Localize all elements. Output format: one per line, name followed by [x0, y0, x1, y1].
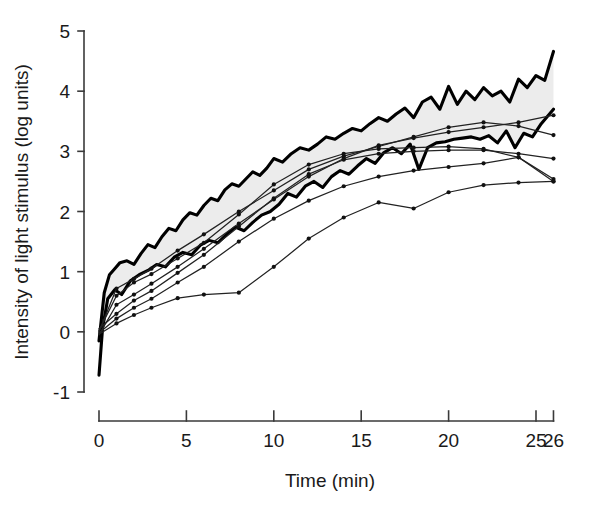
data-point [447, 144, 451, 148]
data-point [237, 291, 241, 295]
data-point [176, 271, 180, 275]
data-point [114, 294, 118, 298]
data-point [516, 124, 520, 128]
data-point [149, 267, 153, 271]
data-point [412, 149, 416, 153]
data-point [307, 199, 311, 203]
dark-adaptation-chart: -1012345051015202526 Time (min) Intensit… [0, 0, 594, 507]
data-point [132, 313, 136, 317]
data-point [202, 232, 206, 236]
y-tick-label: 2 [59, 202, 70, 223]
data-point [307, 162, 311, 166]
data-point [447, 165, 451, 169]
data-point [149, 272, 153, 276]
data-point [132, 280, 136, 284]
data-point [342, 158, 346, 162]
data-point [551, 113, 555, 117]
data-point [377, 152, 381, 156]
x-axis-title: Time (min) [285, 470, 375, 491]
data-point [377, 175, 381, 179]
data-point [176, 256, 180, 260]
y-tick-label: 0 [59, 322, 70, 343]
data-point [377, 147, 381, 151]
data-point [447, 190, 451, 194]
data-point [342, 215, 346, 219]
data-point [272, 188, 276, 192]
data-point [481, 147, 485, 151]
data-point [237, 239, 241, 243]
data-point [202, 292, 206, 296]
x-tick-label: 26 [543, 430, 564, 451]
x-tick-label: 5 [181, 430, 192, 451]
data-point [237, 224, 241, 228]
data-point [132, 306, 136, 310]
data-point [176, 265, 180, 269]
data-point [516, 155, 520, 159]
x-tick-label: 20 [438, 430, 459, 451]
x-tick-label: 15 [351, 430, 372, 451]
x-tick-label: 10 [263, 430, 284, 451]
data-point [481, 161, 485, 165]
figure-container: -1012345051015202526 Time (min) Intensit… [0, 0, 594, 507]
data-point [132, 292, 136, 296]
data-point [412, 146, 416, 150]
data-point [114, 312, 118, 316]
data-point [307, 172, 311, 176]
data-point [377, 200, 381, 204]
data-point [176, 296, 180, 300]
data-point [342, 184, 346, 188]
data-point [516, 120, 520, 124]
y-tick-label: 4 [59, 81, 70, 102]
x-tick-label: 0 [94, 430, 105, 451]
data-point [307, 236, 311, 240]
shaded-band [99, 51, 553, 375]
data-point [551, 179, 555, 183]
data-point [307, 167, 311, 171]
y-tick-label: 5 [59, 21, 70, 42]
data-point [202, 247, 206, 251]
data-point [481, 125, 485, 129]
data-point [114, 286, 118, 290]
data-point [447, 148, 451, 152]
data-point [176, 249, 180, 253]
data-point [551, 133, 555, 137]
data-point [272, 196, 276, 200]
data-point [481, 120, 485, 124]
shaded-band-region [99, 51, 553, 375]
data-point [149, 297, 153, 301]
data-point [516, 181, 520, 185]
data-point [412, 206, 416, 210]
data-point [412, 168, 416, 172]
y-tick-label: 1 [59, 262, 70, 283]
data-point [516, 152, 520, 156]
data-point [551, 156, 555, 160]
data-point [342, 152, 346, 156]
data-point [132, 277, 136, 281]
data-point [202, 241, 206, 245]
data-point [149, 289, 153, 293]
y-axis-title: Intensity of light stimulus (log units) [11, 64, 32, 360]
data-point [272, 265, 276, 269]
data-point [202, 253, 206, 257]
data-point [114, 317, 118, 321]
data-point [272, 217, 276, 221]
data-point [149, 282, 153, 286]
data-point [149, 306, 153, 310]
data-point [114, 303, 118, 307]
data-point [412, 136, 416, 140]
data-point [447, 125, 451, 129]
data-point [377, 143, 381, 147]
axis-tick-labels: -1012345051015202526 [53, 21, 564, 451]
data-point [176, 280, 180, 284]
data-point [114, 321, 118, 325]
data-point [202, 265, 206, 269]
data-point [132, 298, 136, 302]
data-point [447, 130, 451, 134]
data-point [237, 212, 241, 216]
data-point [481, 183, 485, 187]
y-tick-label: -1 [53, 382, 70, 403]
y-tick-label: 3 [59, 141, 70, 162]
data-point [272, 182, 276, 186]
